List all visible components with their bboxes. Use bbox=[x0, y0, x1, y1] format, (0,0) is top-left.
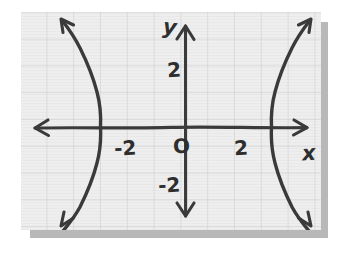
x-axis-label: x bbox=[301, 143, 316, 165]
y-tick-label-positive-2: 2 bbox=[166, 60, 181, 81]
x-axis-line bbox=[35, 127, 307, 128]
hyperbola-left-branch-upper bbox=[63, 22, 101, 128]
x-tick-label-negative-2: -2 bbox=[113, 137, 136, 158]
hyperbola-left-branch-lower bbox=[63, 128, 101, 231]
hyperbola-right-branch-upper bbox=[271, 22, 309, 128]
y-tick-label-negative-2: -2 bbox=[157, 174, 180, 195]
x-tick-label-positive-2: 2 bbox=[233, 138, 248, 159]
figure-canvas: y x 2 -2 -2 2 O bbox=[0, 0, 348, 264]
graph-paper-sheet: y x 2 -2 -2 2 O bbox=[21, 12, 321, 230]
hyperbola-plot bbox=[21, 12, 321, 230]
y-axis-label: y bbox=[162, 16, 178, 38]
origin-label: O bbox=[173, 136, 191, 157]
